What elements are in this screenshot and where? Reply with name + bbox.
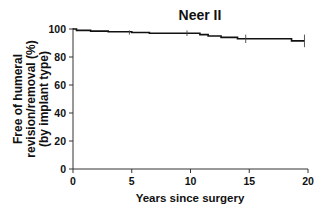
x-tick-label: 10 (185, 175, 197, 187)
y-tick-label: 100 (48, 23, 66, 35)
y-tick-label: 60 (54, 79, 66, 91)
y-tick-label: 80 (54, 51, 66, 63)
y-tick-label: 20 (54, 135, 66, 147)
plot-area: 02040608010005101520 (0, 0, 333, 212)
x-tick-label: 20 (302, 175, 314, 187)
x-tick-label: 0 (70, 175, 76, 187)
survival-chart: Neer II Free of humeral revision/removal… (0, 0, 333, 212)
y-tick-label: 40 (54, 107, 66, 119)
survival-curve (73, 29, 304, 41)
x-tick-label: 15 (243, 175, 255, 187)
y-tick-label: 0 (60, 163, 66, 175)
x-tick-label: 5 (129, 175, 135, 187)
